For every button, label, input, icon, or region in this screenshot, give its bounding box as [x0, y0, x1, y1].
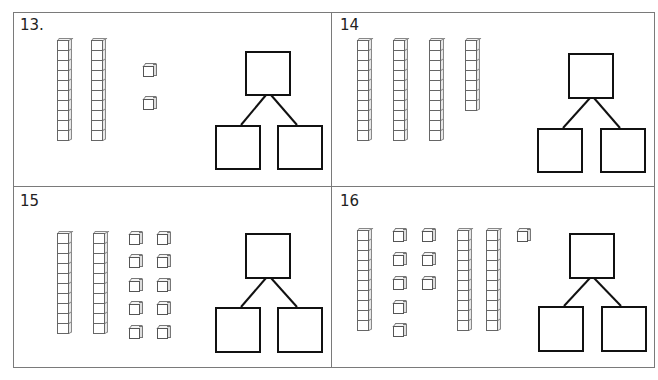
p13-bond-part-left-box[interactable]	[215, 125, 261, 170]
p13-bond-part-right-box[interactable]	[277, 125, 323, 170]
p13-bond-whole-box[interactable]	[245, 51, 291, 96]
p14-bond-part-left-box[interactable]	[537, 128, 583, 173]
p14-bond-whole-box[interactable]	[568, 53, 614, 99]
p16-bond-part-right-box[interactable]	[601, 306, 647, 352]
p16-bond-part-left-box[interactable]	[538, 306, 584, 352]
p14-bond-part-right-box[interactable]	[600, 128, 646, 173]
p15-bond-whole-box[interactable]	[245, 233, 291, 279]
p15-bond-part-left-box[interactable]	[215, 307, 261, 353]
p15-bond-part-right-box[interactable]	[277, 307, 323, 353]
p16-bond-whole-box[interactable]	[569, 233, 615, 279]
